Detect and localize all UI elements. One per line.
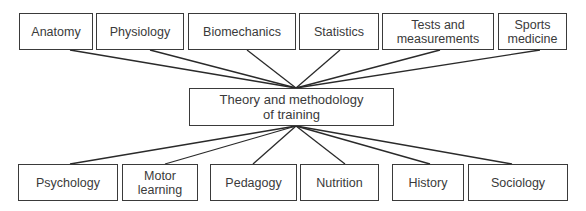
node-pedagogy: Pedagogy <box>210 164 297 201</box>
node-anatomy: Anatomy <box>19 13 93 50</box>
node-psychology: Psychology <box>18 164 118 201</box>
node-physiology: Physiology <box>96 13 184 50</box>
node-sociology: Sociology <box>468 164 568 201</box>
node-motor-learning: Motor learning <box>122 164 198 201</box>
node-theory-and-methodology-of-training: Theory and methodology of training <box>189 88 394 126</box>
node-statistics: Statistics <box>299 13 379 50</box>
node-nutrition: Nutrition <box>300 164 379 201</box>
node-history: History <box>392 164 464 201</box>
node-biomechanics: Biomechanics <box>188 13 296 50</box>
node-tests-and-measurements: Tests and measurements <box>382 13 494 50</box>
node-sports-medicine: Sports medicine <box>498 13 567 50</box>
